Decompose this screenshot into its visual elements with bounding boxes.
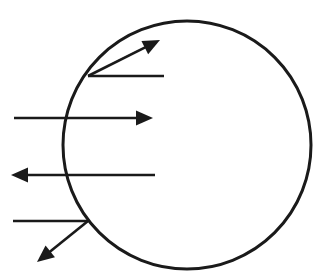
ray-left-pointing [11, 168, 155, 183]
ray-lower-deflected [37, 221, 88, 262]
ray-middle-through [14, 111, 153, 126]
ray-left-pointing-arrowhead-icon [11, 168, 28, 183]
ray-lower-deflected-shaft [44, 221, 88, 256]
ray-diagram-svg [0, 0, 322, 280]
circle-outline [63, 21, 311, 269]
diagram-canvas [0, 0, 322, 280]
ray-middle-through-arrowhead-icon [136, 111, 153, 126]
ray-lower-deflected-arrowhead-icon [37, 246, 55, 263]
